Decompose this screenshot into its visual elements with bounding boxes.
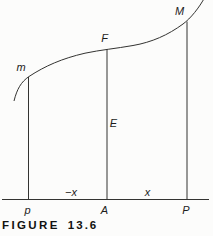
point-label-m: m <box>16 62 25 73</box>
figure-caption-label: FIGURE <box>2 218 60 232</box>
point-label-M: M <box>175 6 184 17</box>
segment-label-E: E <box>110 117 117 128</box>
axis-label-P: P <box>182 204 189 215</box>
axis-label-p: p <box>24 205 30 216</box>
figure-caption: FIGURE 13.6 <box>2 218 98 232</box>
interval-label-minus-x: −x <box>65 187 77 198</box>
interval-label-x: x <box>145 187 151 198</box>
figure-caption-number: 13.6 <box>68 218 98 232</box>
point-label-F: F <box>101 33 108 44</box>
figure-13-6-diagram: m F M E −x x p A P FIGURE 13.6 <box>0 0 213 236</box>
axis-label-A: A <box>101 204 108 215</box>
